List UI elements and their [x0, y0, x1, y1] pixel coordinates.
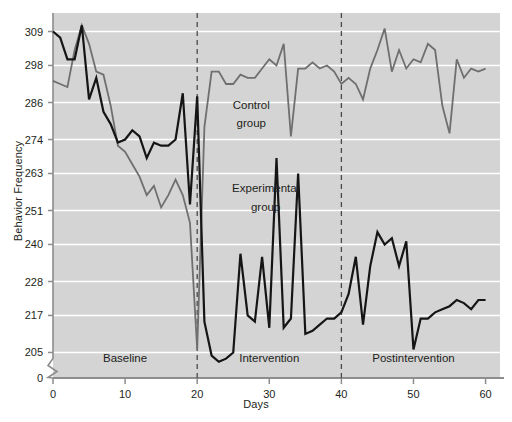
y-axis-zero-label: 0 — [37, 372, 43, 384]
y-axis-tick-label: 263 — [25, 167, 43, 179]
x-axis-tick-label: 40 — [335, 388, 347, 400]
phase-label: Baseline — [103, 352, 147, 364]
series-annotation: group — [237, 117, 266, 129]
y-axis-tick-label: 309 — [25, 26, 43, 38]
behavior-frequency-chart: 2052172282402512632742862983090010203040… — [0, 0, 512, 422]
phase-label: Intervention — [239, 352, 299, 364]
chart-plot-area: 2052172282402512632742862983090010203040… — [0, 0, 512, 422]
y-axis-tick-label: 217 — [25, 309, 43, 321]
y-axis-tick-label: 286 — [25, 97, 43, 109]
y-axis-tick-label: 251 — [25, 205, 43, 217]
x-axis-title: Days — [206, 398, 306, 410]
series-annotation: group — [251, 201, 280, 213]
x-axis-tick-label: 20 — [191, 388, 203, 400]
x-axis-tick-label: 10 — [119, 388, 131, 400]
x-axis-tick-label: 60 — [479, 388, 491, 400]
series-annotation: Experimental — [232, 182, 299, 194]
y-axis-tick-label: 274 — [25, 134, 43, 146]
y-axis-tick-label: 228 — [25, 276, 43, 288]
phase-label: Postintervention — [372, 352, 454, 364]
series-annotation: Control — [233, 99, 270, 111]
x-axis-tick-label: 50 — [407, 388, 419, 400]
plot-background — [53, 13, 500, 378]
y-axis-title: Behavior Frequency — [12, 121, 24, 261]
x-axis-tick-label: 0 — [50, 388, 56, 400]
y-axis-tick-label: 240 — [25, 238, 43, 250]
y-axis-tick-label: 298 — [25, 59, 43, 71]
y-axis-tick-label: 205 — [25, 346, 43, 358]
